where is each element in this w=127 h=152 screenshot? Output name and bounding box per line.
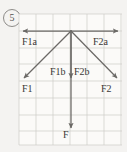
figure-container: 5 [0, 0, 127, 152]
label-F2: F2 [101, 83, 112, 94]
label-F2b: F2b [74, 66, 90, 77]
origin-node [70, 30, 72, 32]
label-F1a: F1a [22, 36, 37, 47]
label-F2a: F2a [93, 36, 108, 47]
label-F1: F1 [22, 83, 33, 94]
label-F1b: F1b [50, 66, 66, 77]
label-F: F [63, 129, 69, 140]
